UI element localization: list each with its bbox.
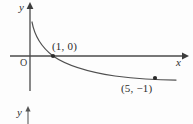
x-axis-label: x <box>176 57 181 68</box>
next-figure-y-axis-arrow-icon <box>25 106 30 112</box>
y-axis-arrow-icon <box>27 2 34 9</box>
point-label-lower-right-point: (5, −1) <box>121 83 152 94</box>
origin-label: O <box>20 58 27 68</box>
next-figure-y-axis-label: y <box>17 107 22 118</box>
y-axis-label: y <box>19 2 24 13</box>
math-figure-log-curve: y x O (1, 0) (5, −1) y <box>0 0 193 124</box>
point-marker-1-0 <box>51 54 55 58</box>
next-figure-fragment <box>0 100 193 124</box>
point-marker-5-neg1 <box>153 76 157 80</box>
x-axis-arrow-icon <box>182 52 189 59</box>
point-label-x-intercept: (1, 0) <box>52 41 77 52</box>
